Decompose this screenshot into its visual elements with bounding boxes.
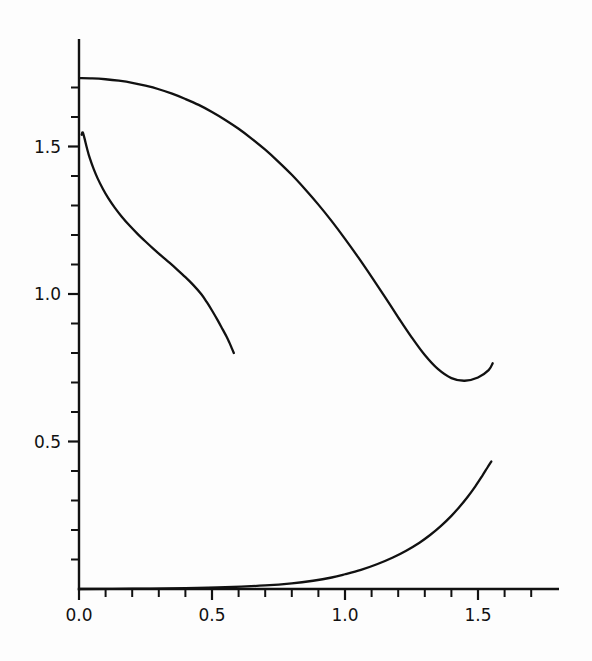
- curve-steep-decaying-curve: [82, 132, 234, 353]
- x-axis-tick-label: 0.0: [65, 605, 92, 625]
- y-axis-tick-label: 1.0: [34, 284, 61, 304]
- ticks-group: [68, 88, 531, 601]
- plot-canvas: 0.00.51.01.50.51.01.5: [0, 0, 592, 661]
- x-axis-tick-label: 1.0: [331, 605, 358, 625]
- curve-lower-increasing-curve: [79, 462, 491, 589]
- x-axis-tick-label: 1.5: [464, 605, 491, 625]
- y-axis-tick-label: 1.5: [34, 137, 61, 157]
- curve-upper-decreasing-curve: [79, 78, 493, 381]
- tick-labels-group: 0.00.51.01.50.51.01.5: [34, 137, 492, 626]
- curves-group: [79, 78, 493, 589]
- y-axis-tick-label: 0.5: [34, 432, 61, 452]
- chart-figure: 0.00.51.01.50.51.01.5: [0, 0, 592, 661]
- axes-group: [79, 40, 558, 589]
- x-axis-tick-label: 0.5: [198, 605, 225, 625]
